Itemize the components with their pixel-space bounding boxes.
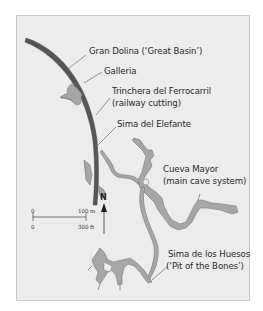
scale-bottom-right: 300 ft (78, 222, 94, 232)
sima-de-los-huesos (92, 248, 152, 285)
leader-trinchera (96, 98, 110, 115)
leader-galleria (84, 72, 102, 83)
north-arrow-icon (101, 203, 107, 234)
label-cueva-mayor-line1: Cueva Mayor (163, 164, 218, 174)
label-galleria: Galleria (104, 66, 136, 76)
label-sima-huesos-line1: Sima de los Huesos (168, 249, 250, 259)
scale-top-left: 0 (31, 206, 34, 216)
leader-gran-dolina (68, 55, 86, 69)
leader-sima-elefante (98, 127, 116, 145)
north-label: N (100, 193, 107, 203)
label-sima-elefante: Sima del Elefante (117, 119, 191, 129)
label-gran-dolina: Gran Dolina (‘Great Basin’) (89, 46, 202, 56)
scale-bottom-left: 0 (31, 222, 34, 232)
label-cueva-mayor-line2: (main cave system) (163, 176, 246, 186)
label-trinchera-line1: Trinchera del Ferrocarril (112, 86, 211, 96)
connecting-passage (100, 150, 142, 186)
label-trinchera-line2: (railway cutting) (112, 98, 181, 108)
label-sima-huesos-line2: (‘Pit of the Bones’) (166, 261, 244, 271)
cutting-side-chamber-left (84, 160, 92, 185)
scale-top-right: 100 m (78, 206, 95, 216)
